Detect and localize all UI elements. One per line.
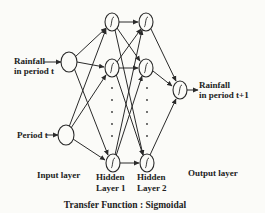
hidden-layer-2-label: Hidden [137,172,166,182]
hidden2-to-output-edges [150,29,176,155]
period-input-label: Period t [17,130,48,140]
input-node-rainfall [61,52,77,72]
neural-network-diagram: Rainfall in period t Period t Rainfall i… [0,0,265,213]
hidden2-node [139,13,153,31]
rainfall-input-sublabel: in period t [14,66,54,76]
rainfall-input-label: Rainfall [14,56,46,66]
output-label: Rainfall [199,80,231,90]
caption: Transfer Function : Sigmoidal [64,200,187,210]
input-layer-nodes [58,52,77,145]
ellipsis-dots [146,87,148,137]
output-sublabel: in period t+1 [199,90,249,100]
ellipsis-dots [111,87,113,137]
hidden-layer-2-sublabel: Layer 2 [137,183,167,193]
output-node [173,81,187,99]
hidden-layer-1-nodes [105,13,120,172]
hidden1-node [106,154,120,172]
hidden1-node [105,59,119,77]
input-to-hidden1-edges [69,28,108,160]
hidden2-node [139,59,153,77]
input-node-period [58,125,74,145]
hidden-layer-1-label: Hidden [96,172,125,182]
hidden1-node [105,13,119,31]
hidden2-node [140,154,154,172]
hidden-layer-1-sublabel: Layer 1 [96,183,126,193]
input-layer-label: Input layer [37,170,80,180]
hidden1-to-hidden2-edges [115,22,143,163]
output-layer-label: Output layer [188,168,238,178]
